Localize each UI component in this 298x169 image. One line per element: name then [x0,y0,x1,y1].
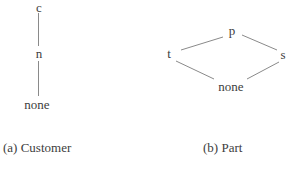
node-part-t: t [167,47,171,60]
node-customer-n: n [36,47,43,60]
edge-s-none [247,62,279,79]
node-part-none: none [218,80,243,93]
caption-part: (b) Part [203,141,242,156]
lattice-figure: c n none p t s none (a) Customer (b) Par… [0,0,298,169]
edge-t-none [176,61,214,79]
edge-p-s [242,35,277,50]
node-part-p: p [229,24,236,37]
caption-customer: (a) Customer [3,141,71,156]
node-part-s: s [280,48,285,61]
node-customer-c: c [36,1,42,14]
edge-p-t [181,37,223,50]
node-customer-none: none [24,98,49,111]
